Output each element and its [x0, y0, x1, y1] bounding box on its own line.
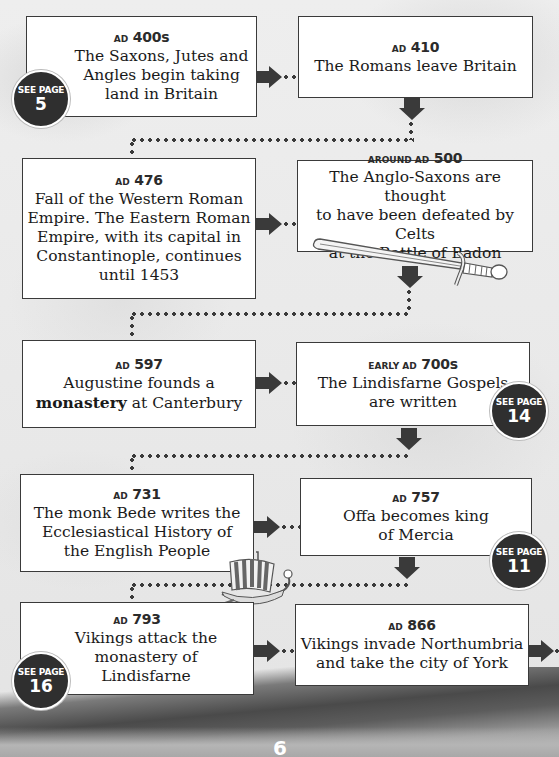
- event-date: EARLY AD 700s: [368, 356, 457, 374]
- arrow-right-icon: [254, 640, 280, 662]
- arrow-down-icon: [394, 557, 420, 579]
- keyword-monastery[interactable]: monastery: [36, 393, 127, 412]
- page-number: 6: [270, 738, 290, 757]
- dotted-connector: [130, 585, 134, 601]
- event-ad476: AD 476 Fall of the Western Roman Empire.…: [22, 158, 256, 299]
- dotted-connector: [280, 525, 300, 529]
- event-date: AD 400s: [114, 29, 169, 47]
- event-date: AD 731: [113, 486, 160, 504]
- event-ad866: AD 866 Vikings invade Northumbria and ta…: [295, 604, 529, 686]
- event-text: The Lindisfarne Gospels are written: [318, 374, 509, 412]
- event-date: AD 476: [115, 172, 162, 190]
- arrow-right-icon: [528, 640, 554, 662]
- see-page-badge-14[interactable]: SEE PAGE 14: [490, 382, 548, 440]
- dotted-connector: [553, 649, 559, 653]
- arrow-down-icon: [399, 98, 425, 120]
- dotted-connector: [130, 454, 411, 458]
- arrow-right-icon: [256, 213, 282, 235]
- badge-page-number: 5: [35, 95, 47, 113]
- see-page-badge-11[interactable]: SEE PAGE 11: [490, 532, 548, 590]
- event-text: Vikings attack the monastery of Lindisfa…: [57, 629, 217, 686]
- dotted-connector: [130, 140, 134, 158]
- arrow-right-icon: [256, 66, 282, 88]
- event-ad410: AD 410 The Romans leave Britain: [298, 16, 533, 98]
- dotted-connector: [130, 314, 134, 340]
- arrow-down-icon: [397, 266, 423, 288]
- dotted-connector: [130, 456, 134, 474]
- event-ad597: AD 597 Augustine founds a monastery at C…: [22, 340, 256, 428]
- event-date: AD 793: [113, 611, 160, 629]
- event-text: The Romans leave Britain: [314, 57, 517, 76]
- arrow-right-icon: [254, 516, 280, 538]
- event-text: Offa becomes king of Mercia: [343, 507, 489, 545]
- dotted-connector: [130, 138, 414, 142]
- event-text: Vikings invade Northumbria and take the …: [301, 635, 524, 673]
- event-date: AD 757: [392, 489, 439, 507]
- event-date: AD 597: [115, 356, 162, 374]
- arrow-right-icon: [256, 372, 282, 394]
- see-page-badge-5[interactable]: SEE PAGE 5: [12, 70, 70, 128]
- dotted-connector: [130, 312, 412, 316]
- badge-page-number: 16: [29, 677, 53, 695]
- event-date: AROUND AD 500: [368, 150, 462, 168]
- event-text: Augustine founds a monastery at Canterbu…: [36, 374, 242, 413]
- event-text: Fall of the Western Roman Empire. The Ea…: [28, 190, 251, 285]
- event-date: AD 866: [388, 617, 435, 635]
- badge-page-number: 11: [507, 557, 531, 575]
- dotted-connector: [407, 288, 411, 314]
- badge-page-number: 14: [507, 407, 531, 425]
- dotted-connector: [409, 120, 413, 140]
- arrow-down-icon: [396, 428, 422, 450]
- see-page-badge-16[interactable]: SEE PAGE 16: [12, 652, 70, 710]
- dotted-connector: [280, 649, 296, 653]
- event-text: The monk Bede writes the Ecclesiastical …: [34, 504, 241, 561]
- dotted-connector: [282, 222, 298, 226]
- event-date: AD 410: [392, 39, 439, 57]
